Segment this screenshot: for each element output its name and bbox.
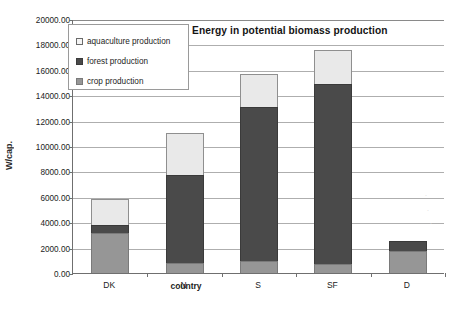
bar-n[interactable] <box>166 133 204 273</box>
bar-segment-crop[interactable] <box>389 251 427 273</box>
x-axis-tick-mark <box>445 273 446 277</box>
legend-item[interactable]: aquaculture production <box>76 31 183 51</box>
bar-segment-crop[interactable] <box>91 233 129 273</box>
x-axis-tick-label-d: D <box>404 280 410 290</box>
bar-s[interactable] <box>240 74 278 273</box>
y-axis-tick-mark <box>69 198 73 199</box>
bar-segment-aquaculture[interactable] <box>166 133 204 176</box>
y-axis-tick-label: 2000.00 <box>16 244 70 253</box>
scan-artifact: . <box>425 190 427 197</box>
x-axis-tick-label-dk: DK <box>103 280 115 290</box>
biomass-energy-bar-chart: W/cap. 0.002000.004000.006000.008000.001… <box>0 0 453 310</box>
bar-segment-crop[interactable] <box>166 263 204 273</box>
x-axis-tick-mark <box>296 273 297 277</box>
y-axis-tick-label: 20000.00 <box>16 16 70 25</box>
bar-segment-aquaculture[interactable] <box>91 199 129 224</box>
y-axis-tick-mark <box>69 20 73 21</box>
y-axis-tick-label: 6000.00 <box>16 193 70 202</box>
x-axis-tick-mark <box>222 273 223 277</box>
legend-item[interactable]: crop production <box>76 71 183 91</box>
bar-segment-crop[interactable] <box>240 261 278 273</box>
bar-segment-aquaculture[interactable] <box>314 50 352 85</box>
y-axis-tick-label: 12000.00 <box>16 117 70 126</box>
legend-swatch-icon <box>76 38 83 45</box>
y-axis-tick-labels: 0.002000.004000.006000.008000.0010000.00… <box>14 0 70 310</box>
legend-swatch-icon <box>76 58 83 65</box>
scan-artifact: . <box>430 218 432 225</box>
bar-segment-forest[interactable] <box>240 107 278 261</box>
x-axis-tick-mark <box>147 273 148 277</box>
y-axis-tick-mark <box>69 147 73 148</box>
legend-item-label: aquaculture production <box>87 37 170 46</box>
y-axis-tick-mark <box>69 274 73 275</box>
bar-segment-forest[interactable] <box>91 225 129 233</box>
scan-artifact: . <box>427 205 429 212</box>
bar-segment-forest[interactable] <box>166 175 204 263</box>
y-axis-tick-label: 0.00 <box>16 270 70 279</box>
y-axis-tick-mark <box>69 249 73 250</box>
gridline <box>73 20 444 21</box>
y-axis-tick-label: 4000.00 <box>16 219 70 228</box>
bar-segment-aquaculture[interactable] <box>240 74 278 108</box>
x-axis-tick-label-s: S <box>255 280 261 290</box>
y-axis-tick-label: 16000.00 <box>16 66 70 75</box>
legend-item[interactable]: forest production <box>76 51 183 71</box>
bar-segment-forest[interactable] <box>314 84 352 264</box>
bar-dk[interactable] <box>91 199 129 273</box>
y-axis-tick-label: 10000.00 <box>16 143 70 152</box>
x-axis-tick-label-n: N <box>181 280 187 290</box>
chart-legend: aquaculture productionforest productionc… <box>68 24 189 90</box>
y-axis-tick-label: 18000.00 <box>16 41 70 50</box>
x-axis-tick-mark <box>371 273 372 277</box>
y-axis-tick-label: 8000.00 <box>16 168 70 177</box>
y-axis-tick-mark <box>69 223 73 224</box>
y-axis-tick-label: 14000.00 <box>16 92 70 101</box>
bar-d[interactable] <box>389 241 427 273</box>
chart-title: Energy in potential biomass production <box>192 25 388 36</box>
y-axis-tick-mark <box>69 172 73 173</box>
legend-swatch-icon <box>76 78 83 85</box>
bar-sf[interactable] <box>314 50 352 274</box>
y-axis-tick-mark <box>69 122 73 123</box>
bar-segment-crop[interactable] <box>314 264 352 273</box>
y-axis-tick-mark <box>69 96 73 97</box>
legend-item-label: crop production <box>87 77 143 86</box>
x-axis-tick-label-sf: SF <box>327 280 338 290</box>
bar-segment-forest[interactable] <box>389 241 427 251</box>
legend-item-label: forest production <box>87 57 148 66</box>
